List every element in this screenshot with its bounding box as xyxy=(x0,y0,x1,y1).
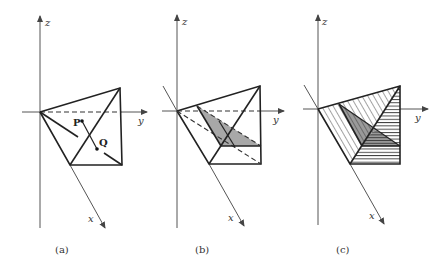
segment-pq xyxy=(82,121,97,149)
panel-b: z y x (b) xyxy=(162,15,284,255)
z-axis-label: z xyxy=(44,17,51,28)
x-axis xyxy=(350,164,384,224)
y-axis-label: y xyxy=(137,115,144,126)
panel-c: z y x (c) xyxy=(303,15,428,255)
tetrahedron-figure: z y x P Q (a) z y x (b xyxy=(0,0,440,272)
point-p xyxy=(80,119,84,123)
caption-c: (c) xyxy=(336,244,350,255)
point-p-label: P xyxy=(73,117,81,128)
y-axis-label: y xyxy=(414,112,421,123)
x-axis-label: x xyxy=(369,210,375,221)
y-axis-label: y xyxy=(272,114,279,125)
x-axis-ext-back xyxy=(304,85,318,109)
z-axis-label: z xyxy=(321,16,328,27)
caption-b: (b) xyxy=(195,244,209,255)
x-axis xyxy=(209,164,244,226)
panel-a: z y x P Q (a) xyxy=(22,16,147,255)
z-axis-label: z xyxy=(181,16,188,27)
caption-a: (a) xyxy=(55,244,69,255)
x-axis-label: x xyxy=(88,213,94,224)
edge-origin-lower-2 xyxy=(104,153,122,165)
x-axis-label: x xyxy=(228,212,234,223)
point-q-label: Q xyxy=(99,137,108,148)
x-axis-ext-back xyxy=(163,86,177,111)
tetra-outline xyxy=(40,88,122,165)
